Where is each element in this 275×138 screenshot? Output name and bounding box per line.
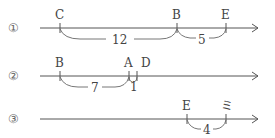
- point-label-E: E: [182, 99, 191, 113]
- span-value-A-D: 1: [130, 80, 138, 94]
- row-1: ① C B E 12 5: [8, 8, 258, 47]
- row-1-index: ①: [8, 21, 19, 35]
- span-value-C-B: 12: [112, 33, 127, 47]
- span-value-B-A: 7: [91, 81, 99, 95]
- row-2-index: ②: [8, 69, 19, 83]
- point-label-D: D: [141, 56, 151, 70]
- point-label-A: A: [123, 56, 133, 70]
- point-label-C: C: [55, 8, 64, 22]
- number-line-diagram: ① C B E 12 5 ② B A D 7 1 ③ E ミ: [0, 0, 275, 138]
- point-label-B: B: [55, 56, 64, 70]
- span-value-B-E: 5: [198, 33, 206, 47]
- row-3-index: ③: [8, 112, 19, 126]
- point-label-E: E: [221, 8, 230, 22]
- point-label-B: B: [172, 8, 181, 22]
- span-value-E-mi: 4: [203, 123, 211, 137]
- point-label-mi: ミ: [221, 99, 233, 113]
- row-2: ② B A D 7 1: [8, 56, 258, 95]
- row-3: ③ E ミ 4: [8, 99, 258, 137]
